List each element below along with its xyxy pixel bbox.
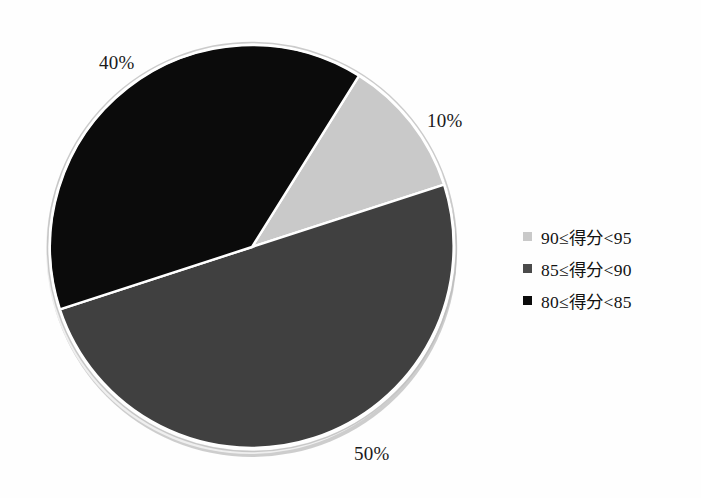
chart-page: 40% 10% 50% 90≤得分<95 85≤得分<90 80≤得分<85	[0, 0, 701, 498]
legend-label-2: 80≤得分<85	[541, 288, 632, 313]
chart-legend: 90≤得分<95 85≤得分<90 80≤得分<85	[523, 222, 688, 318]
legend-swatch-icon-1	[523, 264, 532, 273]
pie-slices	[50, 45, 454, 448]
slice-label-40: 40%	[99, 52, 134, 74]
legend-item-2[interactable]: 80≤得分<85	[523, 286, 688, 314]
slice-label-50: 50%	[354, 443, 389, 465]
legend-label-0: 90≤得分<95	[541, 224, 632, 249]
slice-label-10: 10%	[427, 110, 462, 132]
legend-swatch-icon-0	[523, 232, 532, 241]
legend-label-1: 85≤得分<90	[541, 256, 632, 281]
pie-chart-area: 40% 10% 50%	[0, 0, 480, 498]
legend-item-1[interactable]: 85≤得分<90	[523, 254, 688, 282]
legend-item-0[interactable]: 90≤得分<95	[523, 222, 688, 250]
legend-swatch-icon-2	[523, 296, 532, 305]
pie-chart-svg	[0, 0, 480, 498]
